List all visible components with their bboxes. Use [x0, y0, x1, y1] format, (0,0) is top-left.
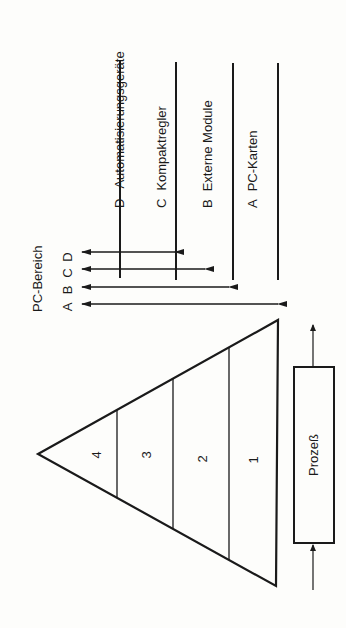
category-label-d: DAutomatisierungsgeräte — [112, 51, 127, 208]
category-label-b: BExterne Module — [200, 100, 215, 208]
scope-letter-b: B — [60, 286, 75, 295]
scope-letters: D C B A — [60, 252, 75, 311]
process-label: Prozeß — [306, 434, 321, 476]
pyramid: 4 3 2 1 — [38, 320, 278, 586]
scope-label: PC-Bereich — [30, 246, 45, 312]
pyramid-level-3: 3 — [139, 451, 154, 458]
process-block: Prozeß — [294, 325, 334, 590]
category-label-a: APC-Karten — [245, 131, 260, 208]
pyramid-level-4: 4 — [89, 451, 104, 458]
pyramid-level-2: 2 — [195, 455, 210, 462]
pyramid-outline — [38, 320, 278, 586]
automation-hierarchy-diagram: DAutomatisierungsgeräte CKompaktregler B… — [0, 0, 346, 628]
scope-letter-c: C — [60, 268, 75, 277]
category-labels: DAutomatisierungsgeräte CKompaktregler B… — [112, 51, 260, 208]
pyramid-level-1: 1 — [246, 456, 261, 463]
category-label-c: CKompaktregler — [154, 105, 169, 208]
scope-letter-d: D — [60, 252, 75, 261]
scope-letter-a: A — [60, 302, 75, 311]
range-arrows — [82, 252, 278, 304]
